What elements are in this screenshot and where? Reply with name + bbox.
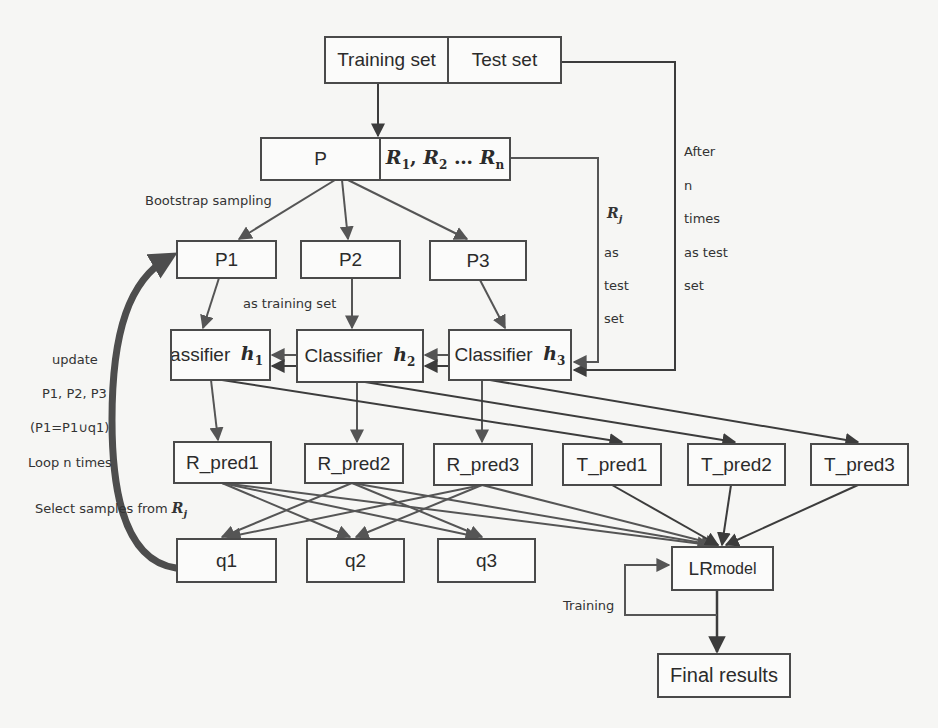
p-cell: P: [262, 139, 379, 179]
node-p3: P3: [429, 240, 527, 281]
arrow-tpred2-to-lr: [722, 485, 731, 545]
node-r-pred2: R_pred2: [304, 443, 404, 484]
label-training: Training: [563, 598, 614, 613]
test-set-label: Test set: [472, 49, 537, 71]
node-q3: q3: [437, 538, 536, 583]
label-bootstrap-sampling: Bootstrap sampling: [145, 193, 272, 208]
node-classifier-h3: Classifier h3: [448, 329, 572, 381]
dataset-split-box: Training set Test set: [324, 36, 562, 84]
node-t-pred1: T_pred1: [562, 443, 662, 486]
arrow-p1-to-h1: [203, 278, 219, 328]
p-r-split-box: P R1, R2 … Rn: [260, 137, 511, 181]
node-p1: P1: [176, 240, 277, 279]
arrow-p-to-p2: [342, 180, 348, 239]
label-select-samples: Select samples from Rj: [35, 500, 187, 519]
node-r-pred3: R_pred3: [433, 443, 533, 486]
arrow-rpred2-to-q3: [352, 483, 482, 537]
arrow-h1-to-rpred1: [211, 380, 218, 440]
arrow-h1-to-tpred1: [222, 380, 622, 442]
node-r-pred1: R_pred1: [173, 441, 272, 484]
arrow-rpred3-to-lr: [482, 485, 718, 545]
r-set-cell: R1, R2 … Rn: [379, 139, 509, 179]
node-lr-model: LR model: [671, 546, 774, 591]
label-as-training-set: as training set: [243, 296, 336, 311]
flow-diagram: Training set Test set P R1, R2 … Rn P1 P…: [0, 0, 938, 728]
loop-arrow-q1-to-p1: [112, 258, 176, 568]
node-classifier-h2: Classifier h2: [296, 329, 424, 383]
test-set-cell: Test set: [447, 38, 560, 82]
arrow-rpred2-to-lr: [352, 483, 714, 545]
arrow-tpred3-to-lr: [726, 485, 858, 545]
r-set-label: R1, R2 … Rn: [386, 146, 504, 172]
training-set-label: Training set: [337, 49, 436, 71]
arrow-p-to-p1: [239, 180, 335, 239]
node-q1: q1: [176, 538, 277, 583]
node-t-pred3: T_pred3: [810, 443, 909, 486]
arrow-p-to-p3: [348, 180, 467, 239]
node-final-results: Final results: [657, 653, 791, 698]
training-set-cell: Training set: [326, 38, 447, 82]
node-classifier-h1: Classifier h1: [170, 329, 271, 381]
arrow-p3-to-h3: [480, 280, 505, 328]
p-label: P: [314, 148, 327, 170]
node-p2: P2: [300, 240, 401, 279]
node-q2: q2: [306, 538, 405, 583]
node-t-pred2: T_pred2: [687, 443, 786, 486]
